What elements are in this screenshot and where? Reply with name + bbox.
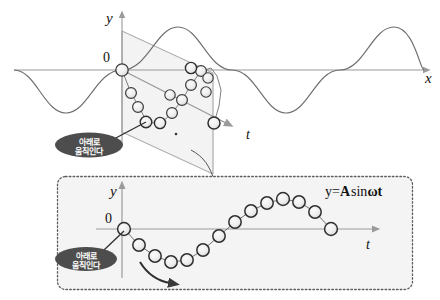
bead [201,87,211,97]
top-callout-line2: 움직인다 [75,147,103,156]
bead [277,193,290,206]
top-callout-line1: 아래로 [79,138,100,147]
bead [185,62,196,73]
bead [154,117,165,128]
bead [213,230,225,242]
bead [165,256,177,268]
bottom-t-axis-label: t [366,237,370,253]
bead [116,64,128,76]
bead [229,216,241,228]
bead [293,196,305,208]
bead [177,95,188,106]
bead [197,244,209,256]
bead [149,250,161,262]
bead [245,205,257,217]
bead [126,88,137,99]
bead [186,80,197,91]
bottom-y-axis-label: y [110,183,117,200]
bottom-origin-label: 0 [105,211,112,227]
equation-omega: ω [367,184,377,199]
top-callout-text: 아래로 움직인다 [59,138,119,156]
bead [167,108,178,119]
equation-lhs: y [325,184,332,199]
equation-label: y=Asinωt [325,184,382,200]
bottom-callout-line2: 움직인다 [72,261,100,270]
bottom-callout-line1: 아래로 [76,252,97,261]
bead [118,223,131,236]
equation-equals: = [332,184,340,199]
bead [261,197,273,209]
equation-amplitude: A [340,184,350,199]
bead [309,206,321,218]
plane-reference-dot [175,133,178,136]
bead [325,223,338,236]
top-y-axis-label: y [106,10,113,27]
bottom-callout-text: 아래로 움직인다 [56,252,116,270]
top-t-axis-label: t [246,127,250,143]
bead [133,239,145,251]
top-x-axis-label: x [425,70,432,87]
figure-canvas: y x t 0 아래로 움직인다 y t 0 y=Asinωt 아래로 움직인다 [0,0,440,300]
bead [208,117,220,129]
bead [181,254,193,266]
equation-function: sin [351,184,367,199]
bead [165,90,175,100]
equation-variable: t [378,184,383,199]
bead [203,73,213,83]
bead [133,102,144,113]
top-origin-label: 0 [103,50,110,66]
